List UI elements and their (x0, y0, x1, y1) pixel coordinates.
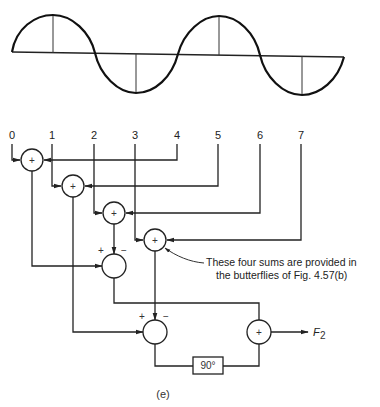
sum-node-c: + (103, 202, 125, 224)
phase-shift-label: 90° (200, 360, 215, 371)
sample-label-3: 3 (132, 129, 138, 141)
sample-label-4: 4 (174, 129, 180, 141)
note-line-2: the butterflies of Fig. 4.57(b) (216, 269, 347, 281)
sample-label-0: 0 (9, 129, 15, 141)
plus-symbol: + (256, 327, 262, 338)
sample-labels: 0 1 2 3 4 5 6 7 (9, 129, 304, 141)
output-subscript: 2 (320, 330, 326, 341)
plus-sign: + (139, 311, 145, 322)
sine-curve (12, 15, 344, 95)
difference-node-f: + − (139, 311, 169, 344)
sum-node-b: + (62, 175, 84, 197)
sample-label-2: 2 (91, 129, 97, 141)
plus-symbol: + (111, 208, 117, 219)
minus-sign: − (163, 311, 169, 322)
sample-label-7: 7 (298, 129, 304, 141)
plus-sign: + (98, 245, 104, 256)
sample-label-5: 5 (215, 129, 221, 141)
sample-label-6: 6 (257, 129, 263, 141)
note-line-1: These four sums are provided in (206, 256, 357, 268)
sum-node-g: + (247, 320, 271, 344)
sample-label-1: 1 (49, 129, 55, 141)
annotation-note: These four sums are provided in the butt… (206, 256, 357, 281)
difference-node-e: + − (98, 245, 127, 278)
figure-caption: (e) (156, 388, 169, 400)
minus-sign: − (121, 245, 127, 256)
plus-symbol: + (29, 155, 35, 166)
plus-symbol: + (152, 235, 158, 246)
plus-symbol: + (70, 181, 76, 192)
phase-shift-box: 90° (193, 357, 223, 374)
output-label: F 2 (313, 326, 326, 341)
sum-node-d: + (144, 229, 166, 251)
diagram: 0 1 2 3 4 5 6 7 (0, 0, 380, 407)
sum-node-a: + (21, 149, 43, 171)
sine-waveform (12, 15, 344, 95)
